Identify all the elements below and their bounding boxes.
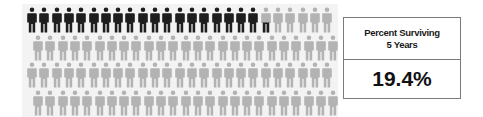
stat-label-line1: Percent Surviving (364, 27, 440, 39)
person-icon (150, 62, 160, 88)
person-icon (64, 62, 74, 88)
person-icon (285, 62, 295, 88)
person-icon (304, 35, 314, 61)
person-icon (273, 62, 283, 88)
person-icon (310, 7, 320, 33)
person-icon (95, 90, 105, 116)
person-icon (33, 35, 43, 61)
person-icon (168, 35, 178, 61)
person-icon (316, 35, 326, 61)
stat-label-line2: 5 Years (386, 39, 417, 51)
person-icon (125, 62, 135, 88)
person-icon (273, 7, 283, 33)
person-icon (64, 7, 74, 33)
person-icon (150, 7, 160, 33)
person-icon (285, 7, 295, 33)
person-icon (187, 62, 197, 88)
person-icon (39, 7, 49, 33)
person-icon (181, 35, 191, 61)
person-icon (279, 35, 289, 61)
person-icon (101, 62, 111, 88)
person-icon (298, 7, 308, 33)
person-icon (125, 7, 135, 33)
person-icon (279, 90, 289, 116)
person-icon (230, 90, 240, 116)
person-icon (218, 35, 228, 61)
person-icon (138, 62, 148, 88)
person-icon (107, 90, 117, 116)
person-icon (291, 90, 301, 116)
person-icon (267, 35, 277, 61)
person-icon (224, 7, 234, 33)
person-icon (89, 62, 99, 88)
stat-value: 19.4% (344, 60, 460, 98)
survival-stat-box: Percent Surviving 5 Years 19.4% (343, 17, 461, 99)
person-icon (45, 90, 55, 116)
person-icon (82, 35, 92, 61)
person-icon (52, 7, 62, 33)
person-icon (236, 62, 246, 88)
person-icon (162, 7, 172, 33)
person-icon (119, 35, 129, 61)
person-icon (205, 35, 215, 61)
person-icon (95, 35, 105, 61)
person-icon (181, 90, 191, 116)
person-icon (310, 62, 320, 88)
person-icon (212, 7, 222, 33)
person-icon (119, 90, 129, 116)
person-icon (267, 90, 277, 116)
person-icon (248, 62, 258, 88)
person-icon (322, 62, 332, 88)
person-icon (58, 35, 68, 61)
person-icon (199, 7, 209, 33)
person-icon (242, 35, 252, 61)
person-icon (113, 7, 123, 33)
person-icon (322, 7, 332, 33)
person-icon (101, 7, 111, 33)
person-icon (236, 7, 246, 33)
person-icon (82, 90, 92, 116)
person-icon (298, 62, 308, 88)
person-icon (33, 90, 43, 116)
person-icon (52, 62, 62, 88)
person-icon (27, 7, 37, 33)
person-icon (205, 90, 215, 116)
person-icon (58, 90, 68, 116)
person-icon (187, 7, 197, 33)
person-icon (70, 90, 80, 116)
person-icon (45, 35, 55, 61)
person-icon (144, 35, 154, 61)
person-icon (39, 62, 49, 88)
person-icon (328, 90, 338, 116)
person-icon (254, 90, 264, 116)
person-icon (156, 35, 166, 61)
person-icon (212, 62, 222, 88)
person-icon (144, 90, 154, 116)
person-icon (76, 62, 86, 88)
person-icon (261, 7, 271, 33)
person-icon (70, 35, 80, 61)
person-icon (193, 90, 203, 116)
person-icon (175, 62, 185, 88)
stat-label: Percent Surviving 5 Years (344, 18, 460, 60)
person-icon (254, 35, 264, 61)
person-icon (261, 62, 271, 88)
person-icon (162, 62, 172, 88)
person-icon (199, 62, 209, 88)
person-icon (27, 62, 37, 88)
person-icon (131, 35, 141, 61)
person-icon (107, 35, 117, 61)
pictogram-chart (22, 4, 338, 117)
person-icon (242, 90, 252, 116)
person-icon (138, 7, 148, 33)
person-icon (156, 90, 166, 116)
person-icon (76, 7, 86, 33)
person-icon (113, 62, 123, 88)
person-icon (168, 90, 178, 116)
person-icon (316, 90, 326, 116)
person-icon (304, 90, 314, 116)
person-icon (224, 62, 234, 88)
person-icon (131, 90, 141, 116)
person-icon (193, 35, 203, 61)
person-icon (218, 90, 228, 116)
